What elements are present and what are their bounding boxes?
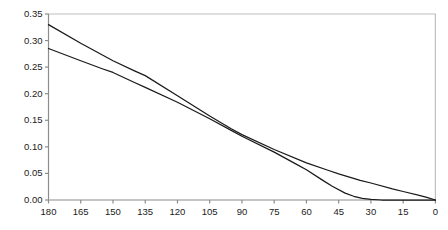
x-tick-label: 60 <box>301 207 312 217</box>
y-tick-label: 0.05 <box>24 169 43 179</box>
chart-container: 0.000.050.100.150.200.250.300.35 1801651… <box>0 0 448 230</box>
x-tick-label: 135 <box>137 207 153 217</box>
x-tick-label: 15 <box>398 207 409 217</box>
x-tick-label: 150 <box>105 207 121 217</box>
y-tick-label: 0.10 <box>24 142 43 152</box>
x-tick-label: 90 <box>237 207 248 217</box>
x-tick-label: 180 <box>41 207 57 217</box>
chart-plot-area <box>0 0 448 230</box>
y-tick-label: 0.35 <box>24 9 43 19</box>
y-tick-label: 0.25 <box>24 62 43 72</box>
x-tick-label: 45 <box>333 207 344 217</box>
y-tick-label: 0.15 <box>24 116 43 126</box>
plot-frame <box>48 14 436 200</box>
curve-upper <box>49 25 436 200</box>
series-lines <box>49 25 436 200</box>
x-tick-label: 105 <box>202 207 218 217</box>
x-tick-label: 30 <box>366 207 377 217</box>
y-tick-label: 0.00 <box>24 195 43 205</box>
y-tick-label: 0.30 <box>24 36 43 46</box>
x-tick-label: 120 <box>170 207 186 217</box>
curve-lower <box>49 49 436 200</box>
x-tick-label: 0 <box>433 207 438 217</box>
x-tick-label: 165 <box>73 207 89 217</box>
y-tick-label: 0.20 <box>24 89 43 99</box>
x-tick-label: 75 <box>269 207 280 217</box>
